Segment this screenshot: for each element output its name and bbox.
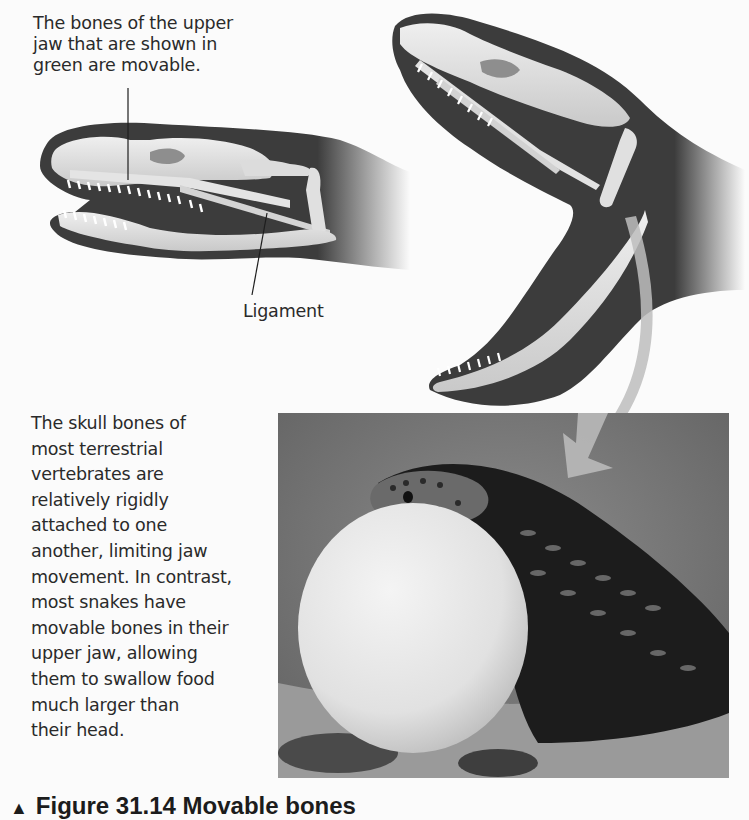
body-line: relatively rigidly [31,488,261,514]
snake-eye [403,491,413,503]
body-line: their head. [31,718,261,744]
closed-jaw-skull [40,88,410,295]
body-line: them to swallow food [31,667,261,693]
body-line: attached to one [31,513,261,539]
body-line: upper jaw, allowing [31,641,261,667]
caption-marker: ▲ [10,798,28,818]
body-line: most terrestrial [31,437,261,463]
body-line: much larger than [31,693,261,719]
body-line: movement. In contrast, [31,565,261,591]
open-jaw-skull [392,14,745,406]
body-paragraph: The skull bones of most terrestrial vert… [31,411,261,744]
figure-caption: ▲Figure 31.14 Movable bones [10,792,356,820]
caption-text: Figure 31.14 Movable bones [36,792,356,819]
ligament-label: Ligament [243,301,324,322]
egg [298,503,528,753]
body-line: another, limiting jaw [31,539,261,565]
body-line: movable bones in their [31,616,261,642]
body-line: The skull bones of [31,411,261,437]
body-line: most snakes have [31,590,261,616]
body-line: vertebrates are [31,462,261,488]
snake-egg-photo [278,413,729,778]
